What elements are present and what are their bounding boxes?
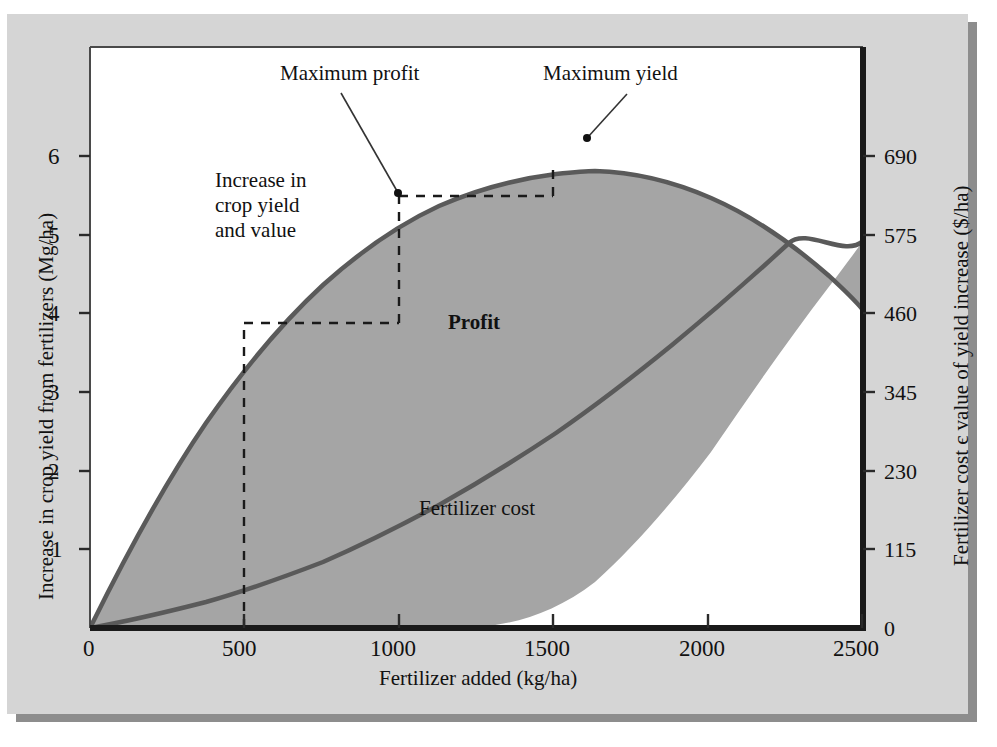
point-maximum-profit (394, 189, 402, 197)
panel-drop-shadow-bottom (16, 713, 977, 722)
annotation-increase-line-3: and value (215, 218, 307, 243)
annotation-increase-line-1: Increase in (215, 168, 307, 193)
point-maximum-yield (583, 134, 591, 142)
x-tick-label-500: 500 (222, 636, 257, 662)
annotation-profit: Profit (448, 310, 500, 335)
y2-tick-label-460: 460 (884, 301, 917, 327)
x-tick-label-1500: 1500 (524, 636, 570, 662)
x-tick-label-2500: 2500 (833, 636, 879, 662)
x-tick-label-2000: 2000 (679, 636, 725, 662)
right-axis-title-ampersand: є (949, 436, 973, 445)
left-axis-ticks (79, 156, 90, 549)
annotation-increase-in-crop-yield-and-value: Increase in crop yield and value (215, 168, 307, 242)
bottom-axis-title: Fertilizer added (kg/ha) (379, 666, 577, 691)
annotation-maximum-profit: Maximum profit (280, 61, 419, 86)
x-tick-label-1000: 1000 (370, 636, 416, 662)
right-axis-title: Fertilizer cost є value of yield increas… (949, 186, 974, 566)
annotation-increase-line-2: crop yield (215, 193, 307, 218)
y2-tick-label-345: 345 (884, 380, 917, 406)
y2-tick-label-690: 690 (884, 144, 917, 170)
chart-canvas (7, 14, 968, 714)
y-tick-label-6: 6 (48, 144, 60, 170)
y2-tick-label-230: 230 (884, 459, 917, 485)
y2-tick-label-0: 0 (884, 616, 895, 642)
annotation-fertilizer-cost: Fertilizer cost (419, 496, 535, 521)
x-tick-label-0: 0 (83, 636, 95, 662)
annotation-maximum-yield: Maximum yield (543, 61, 678, 86)
y2-tick-label-575: 575 (884, 223, 917, 249)
left-axis-title: Increase in crop yield from fertilizers … (34, 213, 59, 600)
figure-root: 1 2 3 4 5 6 Increase in crop yield from … (0, 0, 997, 747)
right-axis-title-part1: Fertilizer cost (949, 450, 973, 566)
y2-tick-label-115: 115 (884, 537, 916, 563)
figure-panel: 1 2 3 4 5 6 Increase in crop yield from … (7, 14, 968, 714)
right-axis-title-part2: value of yield increase ($/ha) (949, 186, 973, 431)
